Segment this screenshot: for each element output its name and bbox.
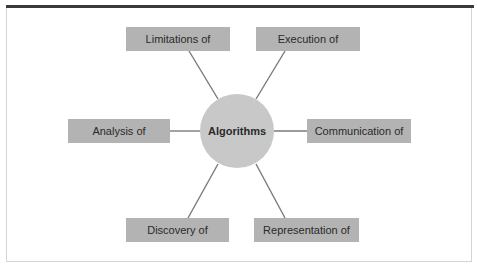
hub-label: Algorithms (208, 125, 266, 137)
node-limitations: Limitations of (126, 27, 230, 51)
center-hub: Algorithms (200, 94, 274, 168)
node-discovery: Discovery of (126, 218, 229, 242)
node-label: Representation of (263, 224, 350, 236)
node-communication: Communication of (307, 119, 411, 143)
connector-limitations (189, 51, 218, 99)
connector-execution (256, 51, 285, 99)
node-label: Discovery of (147, 224, 208, 236)
node-analysis: Analysis of (68, 119, 170, 143)
connector-representation (256, 164, 285, 218)
node-label: Limitations of (146, 33, 211, 45)
node-label: Execution of (278, 33, 339, 45)
node-label: Communication of (315, 125, 404, 137)
node-label: Analysis of (92, 125, 145, 137)
connector-discovery (188, 164, 218, 218)
node-representation: Representation of (254, 218, 359, 242)
node-execution: Execution of (256, 27, 360, 51)
